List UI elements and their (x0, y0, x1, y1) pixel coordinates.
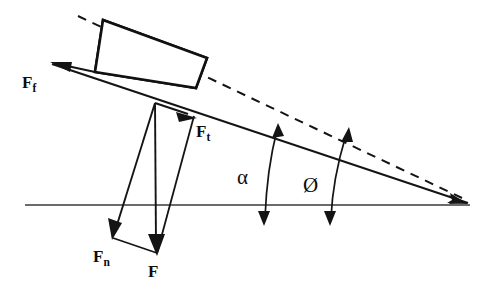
alpha-angle-arc (258, 123, 284, 226)
phi-angle-label: Ø (303, 173, 318, 197)
closure-normal-to-weight (113, 238, 157, 253)
normal-force-vector (108, 103, 155, 240)
weight-force-label: F (148, 262, 158, 281)
inclined-plane-figure: Ff Ft Fn F α Ø (0, 0, 489, 295)
incline-surface-line (52, 64, 468, 203)
phi-arc-top-arrowhead (341, 127, 353, 142)
friction-force-label: Ff (22, 73, 36, 94)
closure-tangential-to-weight (157, 116, 194, 253)
normal-force-arrowhead (108, 218, 122, 240)
phi-arc-bottom-arrowhead (324, 211, 336, 226)
block-outline-overlay (95, 20, 207, 88)
tangential-force-label: Ft (196, 122, 210, 143)
alpha-angle-label: α (237, 165, 248, 189)
force-diagram: Ff Ft Fn F α Ø (0, 0, 489, 295)
phi-angle-arc (324, 127, 353, 226)
alpha-arc-bottom-arrowhead (258, 211, 270, 226)
friction-force-arrowhead (50, 62, 72, 72)
alpha-arc-top-arrowhead (272, 123, 284, 138)
normal-force-label: Fn (93, 247, 110, 268)
